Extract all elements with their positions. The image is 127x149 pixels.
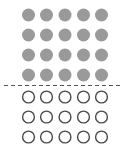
empty-circle-icon — [23, 91, 35, 103]
empty-circle-icon — [59, 131, 71, 143]
filled-circle-icon — [95, 69, 108, 82]
filled-circle-icon — [22, 9, 35, 22]
empty-circle-icon — [78, 111, 90, 123]
empty-circle-icon — [59, 111, 71, 123]
empty-circle-icon — [78, 91, 90, 103]
empty-circle-icon — [78, 131, 90, 143]
filled-circle-icon — [22, 49, 35, 62]
empty-circles-group — [23, 91, 108, 143]
pictogram-chart — [0, 0, 127, 149]
empty-circle-icon — [96, 131, 108, 143]
filled-circle-icon — [40, 9, 53, 22]
filled-circles-group — [22, 9, 108, 82]
empty-circle-icon — [96, 91, 108, 103]
filled-circle-icon — [59, 49, 72, 62]
filled-circle-icon — [95, 9, 108, 22]
filled-circle-icon — [22, 69, 35, 82]
filled-circle-icon — [40, 49, 53, 62]
filled-circle-icon — [22, 29, 35, 42]
empty-circle-icon — [41, 91, 53, 103]
empty-circle-icon — [23, 131, 35, 143]
filled-circle-icon — [95, 29, 108, 42]
filled-circle-icon — [77, 29, 90, 42]
empty-circle-icon — [59, 91, 71, 103]
filled-circle-icon — [40, 29, 53, 42]
filled-circle-icon — [95, 49, 108, 62]
empty-circle-icon — [23, 111, 35, 123]
filled-circle-icon — [59, 29, 72, 42]
empty-circle-icon — [41, 131, 53, 143]
filled-circle-icon — [77, 9, 90, 22]
filled-circle-icon — [77, 49, 90, 62]
filled-circle-icon — [40, 69, 53, 82]
filled-circle-icon — [59, 69, 72, 82]
empty-circle-icon — [41, 111, 53, 123]
empty-circle-icon — [96, 111, 108, 123]
filled-circle-icon — [59, 9, 72, 22]
filled-circle-icon — [77, 69, 90, 82]
